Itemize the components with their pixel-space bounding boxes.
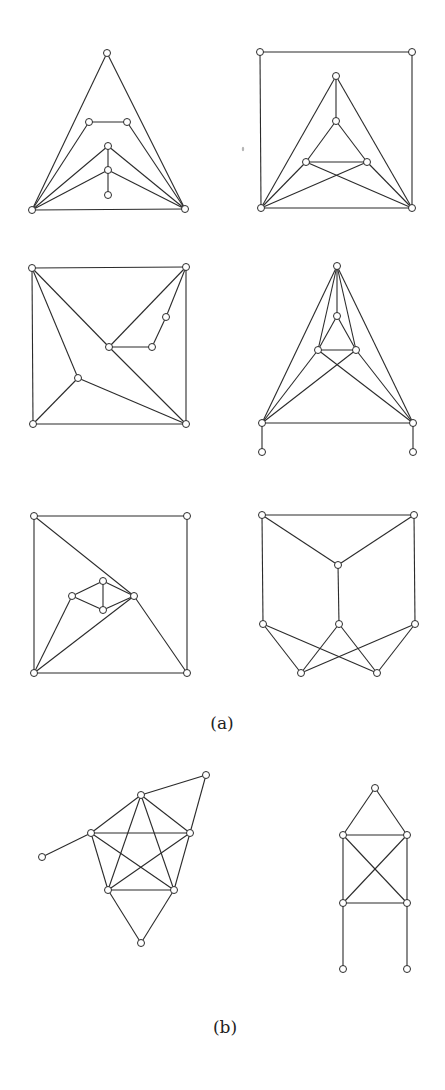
- graph-edge: [375, 788, 407, 835]
- graph-figure: [0, 0, 445, 1090]
- graph-vertex: [409, 49, 416, 56]
- graph-vertex: [86, 119, 93, 126]
- graph-vertex: [163, 314, 170, 321]
- graph-edge: [91, 833, 174, 890]
- graph-vertex: [88, 830, 95, 837]
- graph-edge: [338, 515, 414, 565]
- graph-vertex: [183, 421, 190, 428]
- graph-edge: [32, 267, 186, 268]
- graph-a1: [29, 50, 189, 214]
- graph-vertex: [315, 347, 322, 354]
- graph-vertex: [69, 593, 76, 600]
- graph-vertex: [29, 207, 36, 214]
- graph-edge: [301, 624, 339, 673]
- graph-edge: [34, 516, 134, 596]
- graph-vertex: [404, 900, 411, 907]
- graph-edge: [306, 121, 336, 162]
- graph-vertex: [409, 205, 416, 212]
- graph-vertex: [353, 347, 360, 354]
- graph-vertex: [100, 578, 107, 585]
- graph-vertex: [30, 421, 37, 428]
- graph-vertex: [105, 167, 112, 174]
- graph-edge: [141, 795, 174, 890]
- graph-vertex: [138, 940, 145, 947]
- graph-edge: [263, 624, 301, 673]
- graph-vertex: [138, 792, 145, 799]
- graph-vertex: [100, 607, 107, 614]
- graph-edge: [174, 833, 190, 890]
- graph-vertex: [75, 375, 82, 382]
- graph-edge: [337, 316, 356, 350]
- graph-edge: [108, 795, 141, 890]
- graph-edge: [32, 53, 107, 210]
- graph-vertex: [259, 449, 266, 456]
- graph-vertex: [303, 159, 310, 166]
- graph-vertex: [105, 143, 112, 150]
- graph-edge: [152, 317, 166, 347]
- graph-edge: [109, 347, 186, 424]
- graph-edge: [377, 624, 415, 673]
- graph-edge: [141, 890, 174, 943]
- graph-vertex: [184, 670, 191, 677]
- graph-edge: [260, 52, 261, 208]
- graph-edge: [32, 170, 108, 210]
- graph-edge: [78, 378, 186, 424]
- graph-edge: [34, 596, 72, 673]
- graph-vertex: [410, 449, 417, 456]
- graph-edge: [108, 170, 185, 209]
- graph-edge: [108, 890, 141, 943]
- graph-vertex: [184, 513, 191, 520]
- graph-edge: [338, 565, 339, 624]
- graph-a5: [31, 513, 191, 677]
- graph-edge: [356, 350, 413, 423]
- graph-vertex: [410, 420, 417, 427]
- graph-vertex: [335, 562, 342, 569]
- graph-vertex: [260, 621, 267, 628]
- graph-a2: [257, 49, 416, 212]
- graph-vertex: [31, 670, 38, 677]
- graph-vertex: [334, 263, 341, 270]
- graph-vertex: [333, 73, 340, 80]
- graph-vertex: [31, 513, 38, 520]
- graph-edge: [318, 316, 337, 350]
- caption-part-b: (b): [213, 1017, 237, 1037]
- graph-edge: [109, 267, 186, 347]
- graph-vertex: [258, 205, 265, 212]
- graph-edge: [262, 266, 337, 423]
- graph-vertex: [149, 344, 156, 351]
- graph-vertex: [131, 593, 138, 600]
- graph-vertex: [183, 264, 190, 271]
- graph-vertex: [364, 159, 371, 166]
- graph-edge: [318, 266, 337, 350]
- graph-vertex: [257, 49, 264, 56]
- graph-vertex: [411, 512, 418, 519]
- graph-edge: [108, 146, 185, 209]
- graph-edge: [336, 76, 412, 208]
- graph-vertex: [124, 119, 131, 126]
- graph-vertex: [374, 670, 381, 677]
- graph-vertex: [106, 344, 113, 351]
- graph-vertex: [259, 512, 266, 519]
- graph-vertex: [404, 966, 411, 973]
- graph-b1: [39, 772, 210, 947]
- graph-vertex: [336, 621, 343, 628]
- graph-edge: [262, 515, 263, 624]
- graph-edge: [32, 146, 108, 210]
- graph-edge: [166, 267, 186, 317]
- graph-a3: [29, 264, 190, 428]
- graph-edge: [306, 162, 412, 208]
- graph-edge: [34, 596, 134, 673]
- graph-a4: [259, 263, 417, 456]
- graph-edge: [318, 350, 413, 423]
- graph-edge: [32, 122, 89, 210]
- graph-edge: [32, 268, 109, 347]
- graph-vertex: [333, 118, 340, 125]
- graph-vertex: [171, 887, 178, 894]
- graph-vertex: [259, 420, 266, 427]
- graph-edge: [32, 209, 185, 210]
- graph-edge: [343, 788, 375, 835]
- graph-vertex: [412, 621, 419, 628]
- graph-edge: [134, 596, 187, 673]
- graph-vertex: [298, 670, 305, 677]
- graph-edge: [91, 833, 108, 890]
